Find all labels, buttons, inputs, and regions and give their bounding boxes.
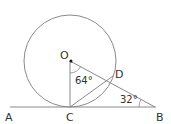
label-a: A — [5, 111, 13, 124]
label-d: D — [115, 68, 123, 81]
label-b: B — [156, 111, 164, 124]
label-o: O — [60, 49, 69, 62]
angle-arc-o — [70, 67, 81, 73]
label-c: C — [66, 111, 74, 124]
geometry-diagram: O D A C B 64° 32° — [0, 0, 171, 124]
angle-label-dbc: 32° — [120, 94, 138, 105]
center-dot — [70, 60, 73, 63]
angle-arc-b — [139, 99, 141, 107]
angle-label-cod: 64° — [75, 75, 93, 86]
